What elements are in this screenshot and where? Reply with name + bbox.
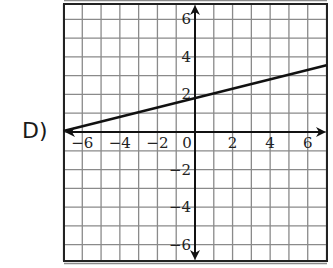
x-tick-label: 4 [265, 134, 275, 152]
y-tick-label: −2 [169, 161, 191, 179]
x-tick-label: 6 [303, 134, 313, 152]
x-tick-label: 2 [228, 134, 238, 152]
x-tick-label: −2 [146, 134, 168, 152]
x-tick-label: −6 [71, 134, 93, 152]
y-tick-label: 6 [181, 10, 191, 28]
x-tick-label: 0 [182, 134, 192, 152]
y-tick-label: −6 [169, 236, 191, 254]
x-tick-label: −4 [109, 134, 131, 152]
y-tick-label: −4 [169, 198, 191, 216]
y-tick-label: 4 [181, 48, 191, 66]
coordinate-plane: −6−4−20246642−2−4−6 [0, 0, 333, 268]
